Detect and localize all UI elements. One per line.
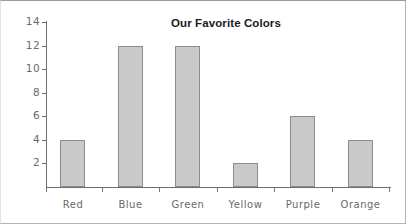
bar-chart-figure: Our Favorite Colors 1412108642 RedBlueGr… [0,0,406,224]
bar-purple [290,116,315,187]
y-axis-tick-label: 8 [6,87,40,98]
x-axis-tick [332,188,333,192]
y-axis-tick [42,163,47,164]
x-axis-tick [217,188,218,192]
x-axis-label-blue: Blue [102,199,160,210]
x-axis-line [46,187,391,188]
y-axis-tick [42,22,47,23]
bar-green [175,46,200,187]
bar-yellow [233,163,258,187]
y-axis-tick [42,46,47,47]
x-axis-label-green: Green [159,199,217,210]
y-axis-tick [42,69,47,70]
x-axis-label-yellow: Yellow [217,199,275,210]
x-axis-tick [389,188,390,192]
y-axis-tick-label: 4 [6,134,40,145]
y-axis-tick-label: 10 [6,63,40,74]
y-axis-tick-label: 12 [6,40,40,51]
y-axis-tick [42,93,47,94]
plot-area: 1412108642 RedBlueGreenYellowPurpleOrang… [1,1,406,224]
y-axis-tick [42,116,47,117]
bar-red [60,140,85,187]
y-axis-tick [42,140,47,141]
x-axis-tick [46,188,47,192]
x-axis-label-orange: Orange [332,199,390,210]
y-axis-tick-label: 14 [6,16,40,27]
x-axis-label-red: Red [44,199,102,210]
x-axis-tick [159,188,160,192]
x-axis-label-purple: Purple [274,199,332,210]
bar-blue [118,46,143,187]
bar-orange [348,140,373,187]
x-axis-tick [274,188,275,192]
y-axis-tick-label: 2 [6,157,40,168]
y-axis-tick-label: 6 [6,110,40,121]
x-axis-tick [102,188,103,192]
